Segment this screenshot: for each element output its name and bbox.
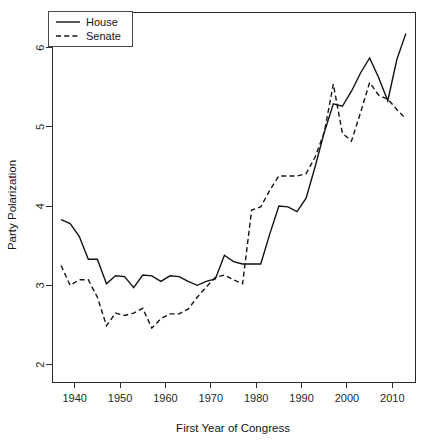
y-tick-label: 6 [34, 45, 46, 51]
y-tick-label: 4 [34, 203, 46, 209]
x-tick-label: 1970 [199, 392, 223, 404]
legend-label-senate: Senate [86, 30, 121, 42]
x-tick-label: 1990 [289, 392, 313, 404]
y-axis-title: Party Polarization [6, 160, 18, 250]
x-tick-label: 2000 [335, 392, 359, 404]
legend-label-house: House [86, 16, 118, 28]
x-tick-label: 1940 [62, 392, 86, 404]
x-tick-label: 2010 [380, 392, 404, 404]
y-tick-label: 2 [34, 362, 46, 368]
chart-legend: House Senate [48, 11, 132, 46]
x-tick-label: 1950 [108, 392, 132, 404]
chart-figure: 19401950196019701980199020002010 23456 F… [0, 0, 425, 441]
x-tick-label: 1980 [244, 392, 268, 404]
y-tick-label: 3 [34, 282, 46, 288]
x-axis-title: First Year of Congress [176, 422, 290, 434]
party-polarization-line-chart: 19401950196019701980199020002010 23456 F… [0, 0, 425, 441]
y-tick-label: 5 [34, 124, 46, 130]
x-tick-label: 1960 [153, 392, 177, 404]
